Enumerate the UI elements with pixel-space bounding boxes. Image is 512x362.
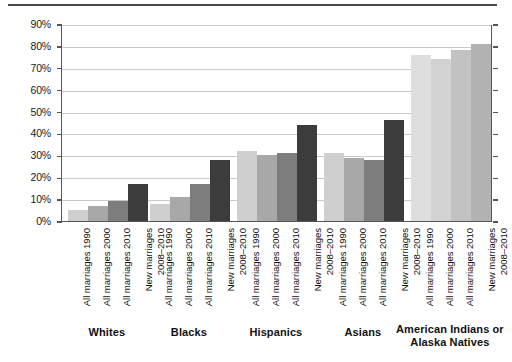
bars-layer xyxy=(62,25,491,221)
bar xyxy=(88,206,108,221)
x-axis-category-labels: All marriages 1990All marriages 2000All … xyxy=(0,224,505,314)
x-category-label: All marriages 2000 xyxy=(183,228,194,314)
y-tick-mark-right xyxy=(493,90,498,91)
y-tick-label: 30% xyxy=(0,149,51,161)
y-tick-mark-right xyxy=(493,46,498,47)
bar xyxy=(257,155,277,221)
bar xyxy=(128,184,148,221)
bar xyxy=(344,158,364,221)
x-category-label: All marriages 1990 xyxy=(337,228,348,314)
y-tick-mark-right xyxy=(493,199,498,200)
bar xyxy=(431,59,451,221)
x-category-label: All marriages 1990 xyxy=(424,228,435,314)
y-tick-label: 40% xyxy=(0,127,51,139)
bar xyxy=(68,210,88,221)
x-category-label: All marriages 2000 xyxy=(357,228,368,314)
bar xyxy=(108,201,128,221)
y-tick-mark xyxy=(57,199,62,200)
x-category-label: New marriages2008–2010 xyxy=(225,228,248,314)
x-category-label: New marriages2008–2010 xyxy=(312,228,335,314)
y-tick-label: 80% xyxy=(0,40,51,52)
bar xyxy=(150,204,170,222)
y-tick-mark xyxy=(57,68,62,69)
bar xyxy=(471,44,491,221)
y-tick-label: 20% xyxy=(0,171,51,183)
bar xyxy=(297,125,317,221)
top-rule xyxy=(8,4,497,6)
bar xyxy=(190,184,210,221)
bar xyxy=(170,197,190,221)
y-tick-mark-right xyxy=(493,156,498,157)
y-tick-mark xyxy=(57,24,62,25)
bar xyxy=(384,120,404,221)
x-category-label: All marriages 2010 xyxy=(290,228,301,314)
bar xyxy=(451,50,471,221)
x-category-label: All marriages 1990 xyxy=(163,228,174,314)
y-tick-mark-right xyxy=(493,24,498,25)
y-tick-mark xyxy=(57,46,62,47)
y-tick-mark xyxy=(57,90,62,91)
x-category-label: All marriages 2010 xyxy=(377,228,388,314)
group-label: American Indians orAlaska Natives xyxy=(375,323,512,349)
y-tick-label: 50% xyxy=(0,106,51,118)
bar xyxy=(411,55,431,221)
y-tick-mark-right xyxy=(493,68,498,69)
x-category-label: All marriages 2000 xyxy=(270,228,281,314)
y-tick-mark-right xyxy=(493,178,498,179)
y-tick-mark xyxy=(57,178,62,179)
plot-area xyxy=(61,25,492,222)
x-category-label: All marriages 2010 xyxy=(203,228,214,314)
bar xyxy=(364,160,384,221)
x-category-label: All marriages 2000 xyxy=(444,228,455,314)
y-tick-mark-right xyxy=(493,221,498,222)
x-category-label: All marriages 2000 xyxy=(101,228,112,314)
y-tick-mark xyxy=(57,221,62,222)
x-category-label: All marriages 1990 xyxy=(81,228,92,314)
x-category-label: All marriages 1990 xyxy=(250,228,261,314)
bar xyxy=(324,153,344,221)
y-tick-mark xyxy=(57,134,62,135)
y-tick-label: 10% xyxy=(0,193,51,205)
y-tick-mark-right xyxy=(493,134,498,135)
y-tick-label: 70% xyxy=(0,62,51,74)
x-category-label: New marriages2008–2010 xyxy=(486,228,509,314)
x-category-label: All marriages 2010 xyxy=(121,228,132,314)
bar xyxy=(277,153,297,221)
x-category-label: New marriages2008–2010 xyxy=(399,228,422,314)
y-tick-mark xyxy=(57,112,62,113)
bar xyxy=(237,151,257,221)
bar xyxy=(210,160,230,221)
y-tick-mark xyxy=(57,156,62,157)
x-category-label: All marriages 2010 xyxy=(464,228,475,314)
y-tick-label: 60% xyxy=(0,84,51,96)
y-tick-mark-right xyxy=(493,112,498,113)
y-tick-label: 90% xyxy=(0,18,51,30)
